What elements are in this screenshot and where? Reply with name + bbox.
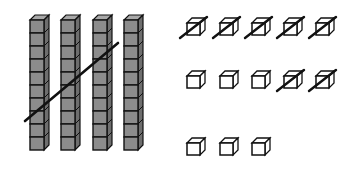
unit-cube-in-rod <box>124 98 138 111</box>
unit-cube-in-rod <box>124 124 138 137</box>
one-cube-crossed <box>245 17 272 38</box>
unit-cube-in-rod <box>93 124 107 137</box>
unit-cube-in-rod <box>30 72 44 85</box>
unit-cube-in-rod <box>93 72 107 85</box>
unit-cube-in-rod <box>124 59 138 72</box>
one-cube-crossed <box>180 17 207 38</box>
one-cube-crossed <box>277 17 304 38</box>
unit-cube-in-rod <box>93 98 107 111</box>
one-cube <box>220 71 238 88</box>
base-ten-diagram: 4 tens and 13 ones; 3 tens and 7 ones cr… <box>0 0 343 182</box>
ten-rod <box>124 15 143 150</box>
one-cube <box>220 138 238 155</box>
unit-cube-in-rod <box>30 33 44 46</box>
unit-cube-in-rod <box>30 124 44 137</box>
unit-cube-in-rod <box>124 46 138 59</box>
unit-cube-in-rod <box>124 20 138 33</box>
unit-cube-in-rod <box>30 46 44 59</box>
one-cube-crossed <box>309 70 336 91</box>
unit-cube-in-rod <box>124 72 138 85</box>
ten-rod-crossed <box>93 15 112 150</box>
unit-cube-in-rod <box>61 137 75 150</box>
unit-cube-in-rod <box>93 33 107 46</box>
one-cube <box>252 71 270 88</box>
unit-cube-in-rod <box>30 85 44 98</box>
unit-cube-in-rod <box>61 98 75 111</box>
unit-cube-in-rod <box>124 33 138 46</box>
unit-cube-in-rod <box>124 111 138 124</box>
unit-cube-in-rod <box>30 111 44 124</box>
unit-cube-in-rod <box>61 59 75 72</box>
unit-cube-in-rod <box>61 20 75 33</box>
unit-cube-in-rod <box>61 124 75 137</box>
unit-cube-in-rod <box>124 85 138 98</box>
one-cube-crossed <box>277 70 304 91</box>
unit-cube-in-rod <box>93 111 107 124</box>
unit-cube-in-rod <box>93 20 107 33</box>
one-cube <box>187 138 205 155</box>
one-cube-crossed <box>213 17 240 38</box>
unit-cube-in-rod <box>124 137 138 150</box>
unit-cube-in-rod <box>61 85 75 98</box>
unit-cube-in-rod <box>30 98 44 111</box>
unit-cube-in-rod <box>30 137 44 150</box>
blocks-canvas <box>0 0 343 182</box>
unit-cube-in-rod <box>61 72 75 85</box>
unit-cube-in-rod <box>61 46 75 59</box>
unit-cube-in-rod <box>30 20 44 33</box>
unit-cube-in-rod <box>61 33 75 46</box>
unit-cube-in-rod <box>30 59 44 72</box>
unit-cube-in-rod <box>93 85 107 98</box>
unit-cube-in-rod <box>61 111 75 124</box>
one-cube <box>187 71 205 88</box>
one-cube-crossed <box>309 17 336 38</box>
one-cube <box>252 138 270 155</box>
unit-cube-in-rod <box>93 137 107 150</box>
ten-rod-crossed <box>30 15 49 150</box>
